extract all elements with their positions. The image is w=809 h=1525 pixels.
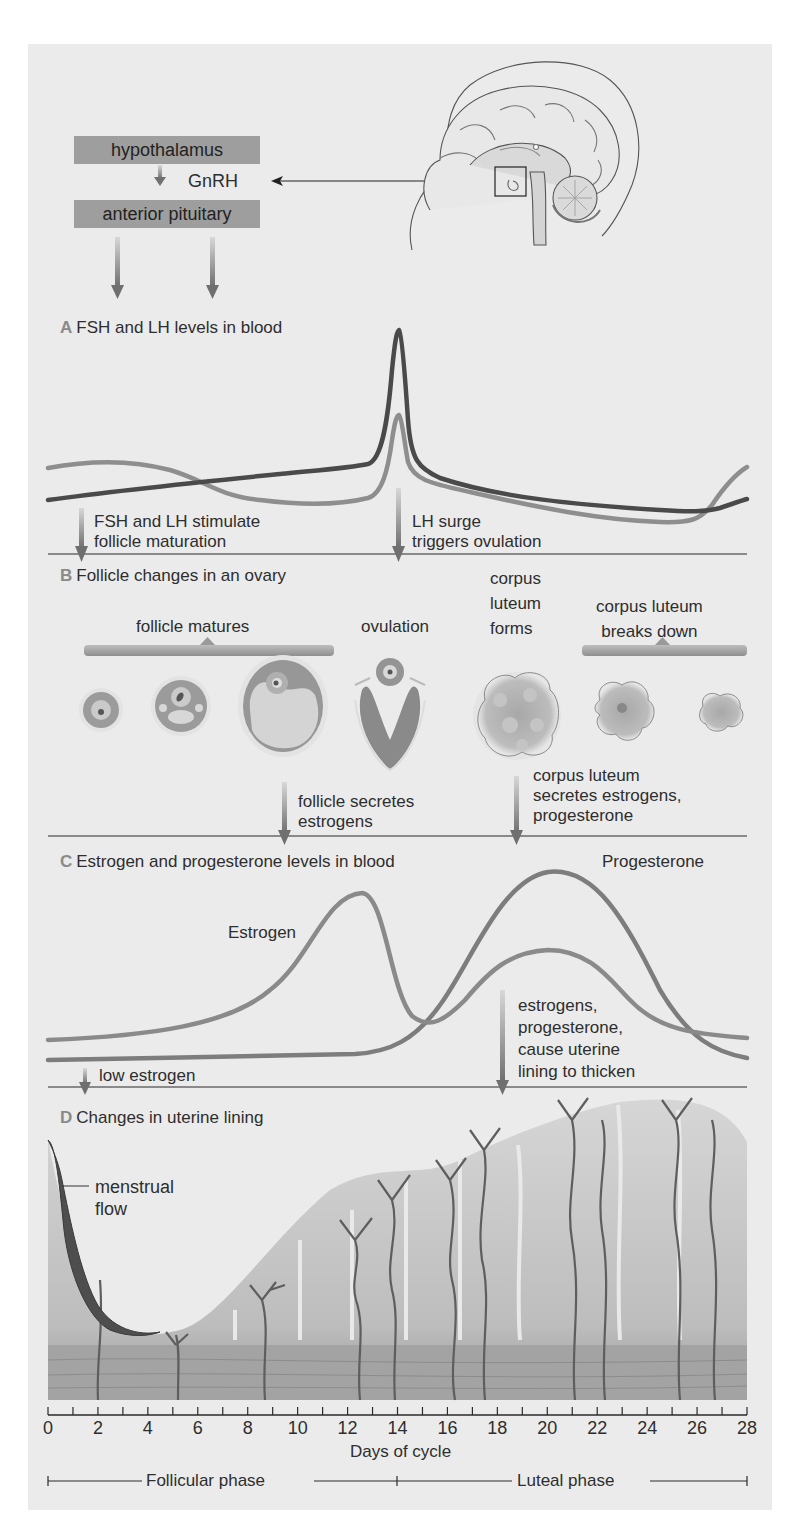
estrogen-label: Estrogen (228, 923, 296, 943)
note-line: follicle secretes (298, 792, 414, 812)
axis-tick-label: 2 (93, 1418, 103, 1438)
lining-thicken-note: estrogens, progesterone, cause uterine l… (518, 995, 635, 1083)
note-line: LH surge (412, 512, 541, 532)
axis-tick-label: 12 (338, 1418, 358, 1438)
note-line: estrogens, (518, 995, 635, 1017)
myometrium-band (48, 1345, 747, 1400)
note-line: follicle maturation (94, 532, 260, 552)
stage-label-corpus-luteum-forms: corpus luteum forms (490, 566, 541, 641)
stage-line: forms (490, 616, 541, 641)
axis-tick-label: 28 (737, 1418, 757, 1438)
estrogen-curve (48, 893, 747, 1040)
stage-line: breaks down (596, 619, 703, 644)
note-line: progesterone, (518, 1017, 635, 1039)
label-line: flow (95, 1198, 174, 1220)
uterine-lining-illustration (48, 1098, 747, 1400)
axis-tick-label: 4 (143, 1418, 153, 1438)
corpus-albicans-icon (700, 693, 743, 731)
stage-line: corpus (490, 566, 541, 591)
lh-surge-arrow-icon (392, 488, 405, 562)
note-line: estrogens (298, 812, 414, 832)
axis-title: Days of cycle (350, 1442, 451, 1462)
follicular-phase-label: Follicular phase (146, 1471, 265, 1491)
stage-line: corpus luteum (596, 594, 703, 619)
progesterone-label: Progesterone (602, 852, 704, 872)
luteal-phase-label: Luteal phase (517, 1471, 614, 1491)
axis-tick-label: 24 (637, 1418, 657, 1438)
primary-follicle-icon (79, 688, 123, 732)
corpus-luteum-forming-icon (473, 672, 561, 760)
fsh-lh-stimulate-note: FSH and LH stimulate follicle maturation (94, 512, 260, 552)
lining-thicken-arrow-icon (496, 990, 509, 1095)
stage-line: luteum (490, 591, 541, 616)
brain-illustration-icon (410, 62, 638, 250)
note-line: progesterone (533, 806, 681, 826)
axis-tick-label: 6 (193, 1418, 203, 1438)
note-line: triggers ovulation (412, 532, 541, 552)
follicle-matures-bracket-icon (84, 637, 334, 656)
lh-surge-note: LH surge triggers ovulation (412, 512, 541, 552)
note-line: cause uterine (518, 1039, 635, 1061)
fsh-release-arrow-icon (111, 237, 124, 299)
axis-tick-label: 18 (487, 1418, 507, 1438)
axis-tick-label: 22 (587, 1418, 607, 1438)
follicle-secretes-note: follicle secretes estrogens (298, 792, 414, 832)
corpus-luteum-secretes-arrow-icon (510, 776, 523, 845)
lh-release-arrow-icon (206, 237, 219, 299)
note-line: lining to thicken (518, 1061, 635, 1083)
low-estrogen-arrow-icon (79, 1068, 91, 1095)
axis-tick-label: 8 (243, 1418, 253, 1438)
corpus-luteum-secretes-note: corpus luteum secretes estrogens, proges… (533, 766, 681, 826)
stage-label-corpus-luteum-breaks-down: corpus luteum breaks down (596, 594, 703, 644)
axis-tick-label: 26 (687, 1418, 707, 1438)
axis-tick-label: 10 (288, 1418, 308, 1438)
stage-label-ovulation: ovulation (361, 617, 429, 637)
axis-tick-label: 0 (43, 1418, 53, 1438)
mature-follicle-icon (238, 655, 328, 757)
axis-tick-label: 14 (388, 1418, 408, 1438)
ovulation-follicle-icon (355, 658, 425, 770)
note-line: secretes estrogens, (533, 786, 681, 806)
diagram-graphics (0, 0, 809, 1525)
axis-tick-label: 20 (537, 1418, 557, 1438)
secondary-follicle-icon (151, 676, 211, 736)
menstrual-flow-label: menstrual flow (95, 1176, 174, 1220)
stage-label-follicle-matures: follicle matures (136, 617, 249, 637)
axis-tick-label: 16 (437, 1418, 457, 1438)
label-line: menstrual (95, 1176, 174, 1198)
corpus-luteum-regressing-icon (595, 682, 654, 740)
small-down-arrow-icon (154, 165, 166, 186)
note-line: FSH and LH stimulate (94, 512, 260, 532)
low-estrogen-note: low estrogen (99, 1066, 195, 1086)
days-axis (48, 1407, 747, 1415)
note-line: corpus luteum (533, 766, 681, 786)
